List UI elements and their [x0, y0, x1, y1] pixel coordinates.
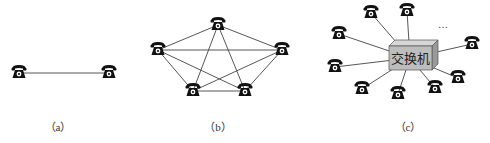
- telephone-icon: [428, 80, 443, 93]
- telephone-icon: [238, 83, 253, 96]
- caption-b: （b）: [204, 118, 232, 134]
- switch-layer: 交换机…: [389, 19, 448, 70]
- telephone-icon: [151, 42, 166, 55]
- switch-label: 交换机: [391, 51, 430, 66]
- link-line: [158, 50, 245, 91]
- telephone-icon: [332, 26, 347, 39]
- telephone-icon: [355, 81, 370, 94]
- switch-box-top: [389, 40, 438, 46]
- telephone-icon: [186, 83, 201, 96]
- telephone-icon: [465, 36, 480, 49]
- caption-a: （a）: [45, 118, 72, 134]
- telephone-icon: [12, 65, 27, 78]
- telephone-icon: [400, 3, 415, 16]
- telephone-icon: [391, 86, 406, 99]
- telephone-icon: [328, 59, 343, 72]
- telephone-icon: [102, 65, 117, 78]
- link-line: [218, 25, 245, 91]
- ellipsis-more-phones: …: [438, 19, 448, 30]
- telephone-icon: [211, 17, 226, 30]
- telephone-icon: [364, 5, 379, 18]
- caption-c: （c）: [395, 118, 422, 134]
- link-line: [158, 25, 218, 50]
- telephone-icon: [275, 42, 290, 55]
- telephone-icon: [451, 70, 466, 83]
- link-line: [218, 25, 282, 50]
